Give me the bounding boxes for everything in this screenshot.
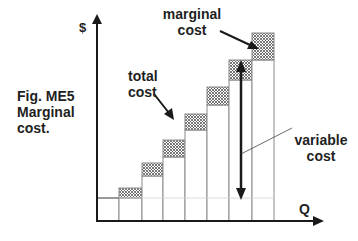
total-cost-label-line-1: total bbox=[128, 68, 158, 84]
bar-6 bbox=[207, 105, 229, 221]
bar-2 bbox=[119, 198, 142, 221]
figure-caption: Fig. ME5 Marginal cost. bbox=[17, 88, 75, 136]
variable-cost-label-line-1: variable bbox=[288, 132, 354, 148]
cost-bars bbox=[97, 33, 274, 221]
total-cost-label-line-2: cost bbox=[128, 84, 158, 100]
marginal-hatch-5 bbox=[185, 114, 207, 130]
bar-5 bbox=[185, 130, 207, 221]
marginal-hatch-6 bbox=[207, 87, 229, 105]
bar-3 bbox=[142, 176, 163, 221]
marginal-cost-label: marginal cost bbox=[160, 6, 224, 38]
y-axis-arrow-icon bbox=[92, 14, 102, 24]
variable-cost-label: variable cost bbox=[288, 132, 354, 164]
variable-cost-label-line-2: cost bbox=[288, 148, 354, 164]
total-cost-label: total cost bbox=[128, 68, 158, 100]
y-axis-label: $ bbox=[79, 20, 86, 36]
bar-1 bbox=[97, 198, 119, 221]
marginal-cost-label-line-2: cost bbox=[160, 22, 224, 38]
figure-caption-line-3: cost. bbox=[17, 120, 75, 136]
figure-caption-line-2: Marginal bbox=[17, 104, 75, 120]
marginal-hatch-4 bbox=[163, 140, 185, 157]
bar-4 bbox=[163, 157, 185, 221]
x-axis-arrow-icon bbox=[313, 216, 324, 226]
marginal-hatch-2 bbox=[119, 188, 142, 198]
bar-8 bbox=[252, 60, 274, 221]
x-axis-label: Q bbox=[299, 201, 310, 217]
marginal-cost-label-line-1: marginal bbox=[160, 6, 224, 22]
figure-caption-line-1: Fig. ME5 bbox=[17, 88, 75, 104]
marginal-hatch-3 bbox=[142, 163, 163, 176]
